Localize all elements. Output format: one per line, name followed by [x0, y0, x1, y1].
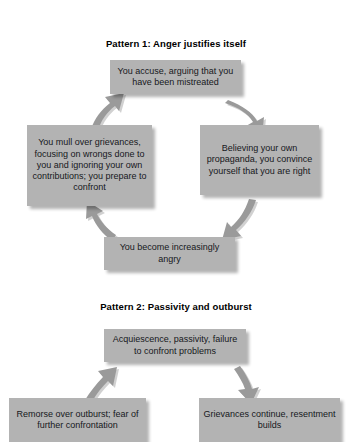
node-you-become-increasingly-angry: You become increasingly angry	[104, 237, 235, 270]
node-grievances-continue: Grievances continue, resentment builds	[199, 398, 340, 442]
node-you-mull-over-grievances: You mull over grievances, focusing on wr…	[27, 125, 152, 206]
node-label: Remorse over outburst; fear of further c…	[13, 409, 142, 432]
node-label: You accuse, arguing that you have been m…	[114, 66, 237, 89]
pattern-2-title: Pattern 2: Passivity and outburst	[0, 301, 352, 313]
node-believing-your-own-propaganda: Believing your own propaganda, you convi…	[200, 125, 319, 195]
node-acquiescence-passivity: Acquiescence, passivity, failure to conf…	[104, 329, 246, 362]
node-you-accuse: You accuse, arguing that you have been m…	[110, 60, 241, 94]
pattern-1-title: Pattern 1: Anger justifies itself	[0, 38, 352, 50]
node-remorse-over-outburst: Remorse over outburst; fear of further c…	[9, 398, 146, 442]
node-label: Acquiescence, passivity, failure to conf…	[108, 334, 242, 357]
node-label: Grievances continue, resentment builds	[203, 409, 336, 432]
node-label: You become increasingly angry	[108, 242, 231, 265]
p1-arrow-right-to-bottom	[222, 199, 258, 242]
node-label: You mull over grievances, focusing on wr…	[31, 137, 148, 193]
node-label: Believing your own propaganda, you convi…	[204, 143, 315, 177]
